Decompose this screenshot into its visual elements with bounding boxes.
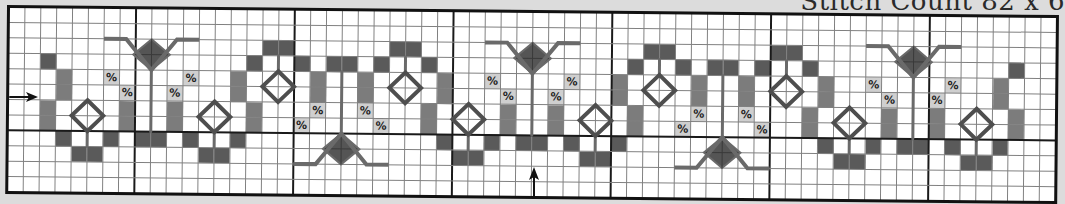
column-center-arrow-icon [529, 167, 539, 197]
row-center-arrow-icon [10, 92, 38, 102]
